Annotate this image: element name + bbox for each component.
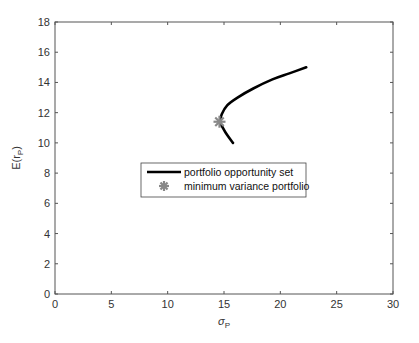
y-tick-label: 2 <box>44 258 50 270</box>
legend-label-opportunity-set: portfolio opportunity set <box>184 166 293 178</box>
x-tick-label: 10 <box>162 298 174 310</box>
x-tick-label: 0 <box>52 298 58 310</box>
y-tick-label: 10 <box>38 137 50 149</box>
opportunity-set-line <box>220 67 306 143</box>
legend-label-min-variance: minimum variance portfolio <box>184 180 310 192</box>
plot-area <box>55 22 393 294</box>
y-tick-label: 6 <box>44 197 50 209</box>
y-axis-ticks: 024681012141618 <box>38 16 393 300</box>
y-tick-label: 8 <box>44 167 50 179</box>
y-tick-label: 16 <box>38 46 50 58</box>
x-axis-label: σP <box>218 315 230 330</box>
min-variance-marker <box>213 116 225 128</box>
x-tick-label: 25 <box>331 298 343 310</box>
y-tick-label: 4 <box>44 228 50 240</box>
x-tick-label: 20 <box>274 298 286 310</box>
legend: portfolio opportunity set minimum varian… <box>141 163 310 197</box>
y-tick-label: 18 <box>38 16 50 28</box>
x-tick-label: 15 <box>218 298 230 310</box>
y-axis-label: E(rP) <box>10 146 25 170</box>
chart: 024681012141618 051015202530 E(rP) σP po… <box>0 0 419 343</box>
x-tick-label: 30 <box>387 298 399 310</box>
y-tick-label: 14 <box>38 76 50 88</box>
x-tick-label: 5 <box>108 298 114 310</box>
y-tick-label: 0 <box>44 288 50 300</box>
y-tick-label: 12 <box>38 107 50 119</box>
legend-asterisk-icon <box>159 181 169 191</box>
